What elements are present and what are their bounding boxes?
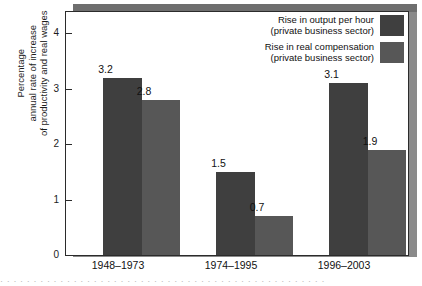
- bar-value-1948-1973-output-per-hour: 3.2: [86, 64, 125, 75]
- bar-1974-1995-real-compensation[interactable]: [255, 216, 293, 255]
- bar-1996-2003-real-compensation[interactable]: [368, 150, 406, 255]
- bar-value-1974-1995-real-compensation: 0.7: [238, 202, 276, 213]
- x-category-label-1948-1973: 1948–1973: [83, 259, 153, 271]
- bar-1948-1973-real-compensation[interactable]: [142, 100, 180, 255]
- legend-label-output-per-hour: Rise in output per hour (private busines…: [271, 14, 374, 36]
- bar-1948-1973-output-per-hour[interactable]: [103, 78, 142, 255]
- bar-chart-figure: 0 1 2 3 4 Percentage annual rate of incr…: [0, 0, 422, 286]
- legend-swatch-real-compensation: [380, 42, 404, 63]
- legend-item-output-per-hour[interactable]: Rise in output per hour (private busines…: [218, 14, 404, 36]
- bar-value-1974-1995-output-per-hour: 1.5: [199, 158, 238, 169]
- legend: Rise in output per hour (private busines…: [218, 14, 404, 68]
- bar-1974-1995-output-per-hour[interactable]: [216, 172, 255, 255]
- legend-label-real-compensation-line-1: Rise in real compensation: [265, 41, 374, 52]
- y-axis-title: Percentage annual rate of increase of pr…: [15, 0, 50, 168]
- y-axis-title-line-1: Percentage: [15, 0, 27, 168]
- legend-label-real-compensation-line-2: (private business sector): [265, 52, 374, 63]
- y-tick-label-0: 0: [45, 250, 59, 260]
- clipped-body-text: · · · · · · · · · · · · · · · · · · · · …: [0, 276, 422, 286]
- y-tick-0: [66, 255, 72, 256]
- bar-value-1948-1973-real-compensation: 2.8: [125, 86, 163, 97]
- x-axis-line: [65, 255, 409, 256]
- legend-label-real-compensation: Rise in real compensation (private busin…: [265, 41, 374, 63]
- legend-label-output-per-hour-line-1: Rise in output per hour: [271, 14, 374, 25]
- bar-1996-2003-output-per-hour[interactable]: [329, 83, 368, 255]
- clipped-body-text-line: · · · · · · · · · · · · · · · · · · · · …: [0, 276, 422, 286]
- legend-item-real-compensation[interactable]: Rise in real compensation (private busin…: [218, 41, 404, 63]
- x-category-label-1996-2003: 1996–2003: [309, 259, 379, 271]
- bar-value-1996-2003-output-per-hour: 3.1: [312, 69, 351, 80]
- legend-swatch-output-per-hour: [380, 15, 404, 36]
- legend-label-output-per-hour-line-2: (private business sector): [271, 25, 374, 36]
- y-axis-title-line-2: annual rate of increase: [26, 0, 38, 168]
- y-tick-label-1: 1: [45, 195, 59, 205]
- x-category-label-1974-1995: 1974–1995: [196, 259, 266, 271]
- y-axis-title-line-3: of productivity and real wages: [38, 0, 50, 168]
- bar-value-1996-2003-real-compensation: 1.9: [351, 136, 389, 147]
